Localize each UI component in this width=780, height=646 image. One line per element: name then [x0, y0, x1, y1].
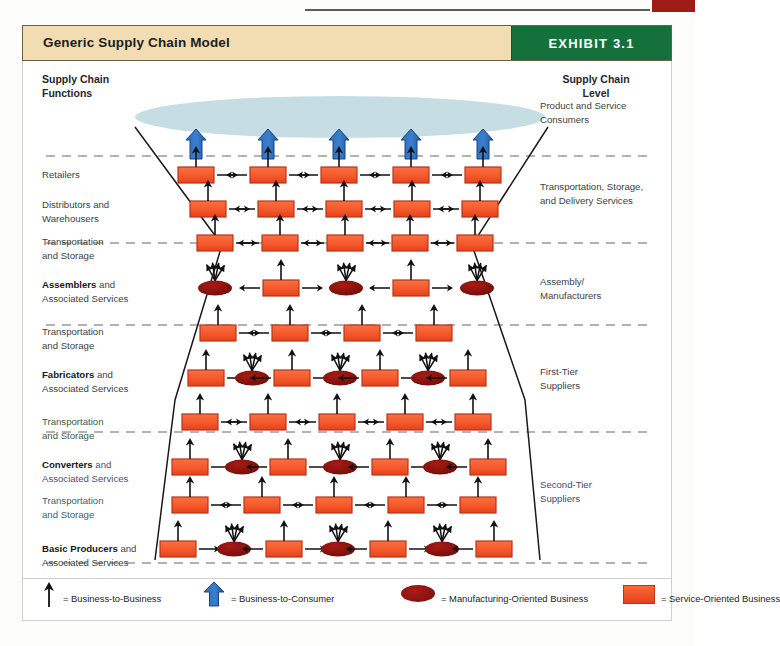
service-rect-icon [623, 585, 655, 604]
function-label-fabricators: Fabricators and Associated Services [42, 368, 160, 395]
diagram-legend: = Business-to-Business = Business-to-Con… [23, 578, 671, 621]
level-label-consumers: Product and Service Consumers [540, 99, 680, 127]
lvl-4-l2: Suppliers [540, 492, 680, 506]
fn-bold-3: Assemblers [42, 279, 96, 290]
functions-heading-line1: Supply Chain [42, 72, 109, 86]
fn-line2-6: and Storage [42, 429, 160, 443]
lvl-0-l1: Product and Service [540, 99, 680, 113]
fn-line2-1: Warehousers [42, 212, 160, 226]
lvl-4-l1: Second-Tier [540, 478, 680, 492]
fn-rest-9: and [118, 543, 137, 554]
level-label-first-tier: First-Tier Suppliers [540, 365, 680, 393]
fn-bold-5: Fabricators [42, 369, 94, 380]
fn-line2-4: and Storage [42, 339, 160, 353]
fn-rest-8: Transportation [42, 495, 104, 506]
function-label-transport-4: Transportation and Storage [42, 494, 160, 521]
exhibit-title: Generic Supply Chain Model [43, 35, 230, 50]
b2c-arrow-icon [203, 581, 225, 607]
exhibit-header-bar: Generic Supply Chain Model EXHIBIT 3.1 [22, 25, 672, 61]
fn-rest-4: Transportation [42, 326, 104, 337]
function-label-basic-producers: Basic Producers and Associated Services [42, 542, 160, 569]
fn-bold-9: Basic Producers [42, 543, 118, 554]
page-top-rule [305, 9, 650, 11]
fn-line2-3: Associated Services [42, 292, 160, 306]
manufacturing-oval-icon [401, 585, 435, 602]
lvl-3-l1: First-Tier [540, 365, 680, 379]
fn-rest-0: Retailers [42, 169, 80, 180]
fn-line2-5: Associated Services [42, 382, 160, 396]
fn-rest-6: Transportation [42, 416, 104, 427]
functions-heading-line2: Functions [42, 86, 109, 100]
function-label-converters: Converters and Associated Services [42, 458, 160, 485]
fn-rest-7: and [93, 459, 112, 470]
legend-text-b2b: = Business-to-Business [63, 593, 161, 604]
lvl-1-l2: and Delivery Services [540, 194, 680, 208]
exhibit-number-badge: EXHIBIT 3.1 [511, 26, 671, 60]
legend-text-manufacturing: = Manufacturing-Oriented Business [441, 593, 588, 604]
function-label-transport-3: Transportation and Storage [42, 415, 160, 442]
function-label-retailers: Retailers [42, 168, 160, 182]
level-heading-line1: Supply Chain [540, 72, 652, 86]
lvl-0-l2: Consumers [540, 113, 680, 127]
fn-rest-5: and [94, 369, 113, 380]
fn-bold-7: Converters [42, 459, 93, 470]
lvl-3-l2: Suppliers [540, 379, 680, 393]
b2b-arrow-icon [41, 581, 57, 607]
level-label-transport-delivery: Transportation, Storage, and Delivery Se… [540, 180, 680, 208]
legend-text-b2c: = Business-to-Consumer [231, 593, 334, 604]
fn-rest-3: and [96, 279, 115, 290]
lvl-1-l1: Transportation, Storage, [540, 180, 680, 194]
fn-line2-2: and Storage [42, 249, 160, 263]
level-label-assembly: Assembly/ Manufacturers [540, 275, 680, 303]
level-label-second-tier: Second-Tier Suppliers [540, 478, 680, 506]
function-label-transport-2: Transportation and Storage [42, 325, 160, 352]
fn-rest-2: Transportation [42, 236, 104, 247]
function-label-transport-1: Transportation and Storage [42, 235, 160, 262]
supply-chain-level-heading: Supply Chain Level [540, 72, 652, 100]
exhibit-number-label: EXHIBIT 3.1 [548, 36, 634, 51]
page-top-red-tab [652, 0, 695, 12]
fn-line2-8: and Storage [42, 508, 160, 522]
lvl-2-l1: Assembly/ [540, 275, 680, 289]
function-label-distributors: Distributors and Warehousers [42, 198, 160, 225]
fn-line2-7: Associated Services [42, 472, 160, 486]
fn-rest-1: Distributors and [42, 199, 109, 210]
function-label-assemblers: Assemblers and Associated Services [42, 278, 160, 305]
supply-chain-functions-heading: Supply Chain Functions [42, 72, 109, 100]
level-heading-line2: Level [540, 86, 652, 100]
fn-line2-9: Associated Services [42, 556, 160, 570]
lvl-2-l2: Manufacturers [540, 289, 680, 303]
legend-text-service: = Service-Oriented Business [661, 593, 780, 604]
